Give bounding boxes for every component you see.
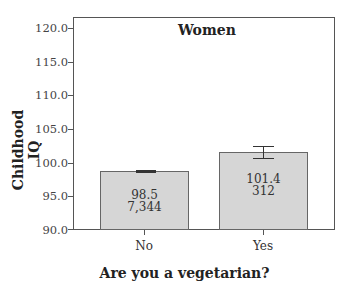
y-tick-mark <box>68 163 73 164</box>
bar-no: 98.5 7,344 <box>100 171 189 230</box>
y-tick-mark <box>68 28 73 29</box>
x-axis-label: Are you a vegetarian? <box>0 265 349 281</box>
y-tick-95: 95.0 <box>0 189 68 203</box>
x-tick-mark <box>144 230 145 235</box>
x-tick-no: No <box>114 239 174 253</box>
x-tick-mark <box>263 230 264 235</box>
error-bar-yes-cap-bottom <box>253 158 274 159</box>
error-bar-yes-cap-top <box>253 146 274 147</box>
chart-title: Women <box>178 22 236 38</box>
error-bar-no <box>136 170 156 173</box>
y-tick-mark <box>68 62 73 63</box>
y-tick-120: 120.0 <box>0 21 68 35</box>
y-tick-mark <box>68 196 73 197</box>
y-tick-100: 100.0 <box>0 156 68 170</box>
y-tick-mark <box>68 129 73 130</box>
bar-yes-count: 312 <box>220 185 307 197</box>
y-tick-115: 115.0 <box>0 55 68 69</box>
y-axis-label: Childhood IQ <box>10 100 42 200</box>
bar-yes: 101.4 312 <box>219 152 308 230</box>
y-tick-mark <box>68 229 73 230</box>
y-tick-105: 105.0 <box>0 122 68 136</box>
bar-no-count: 7,344 <box>101 201 188 213</box>
y-tick-90: 90.0 <box>0 223 68 237</box>
y-tick-110: 110.0 <box>0 88 68 102</box>
y-tick-mark <box>68 95 73 96</box>
x-tick-yes: Yes <box>233 239 293 253</box>
